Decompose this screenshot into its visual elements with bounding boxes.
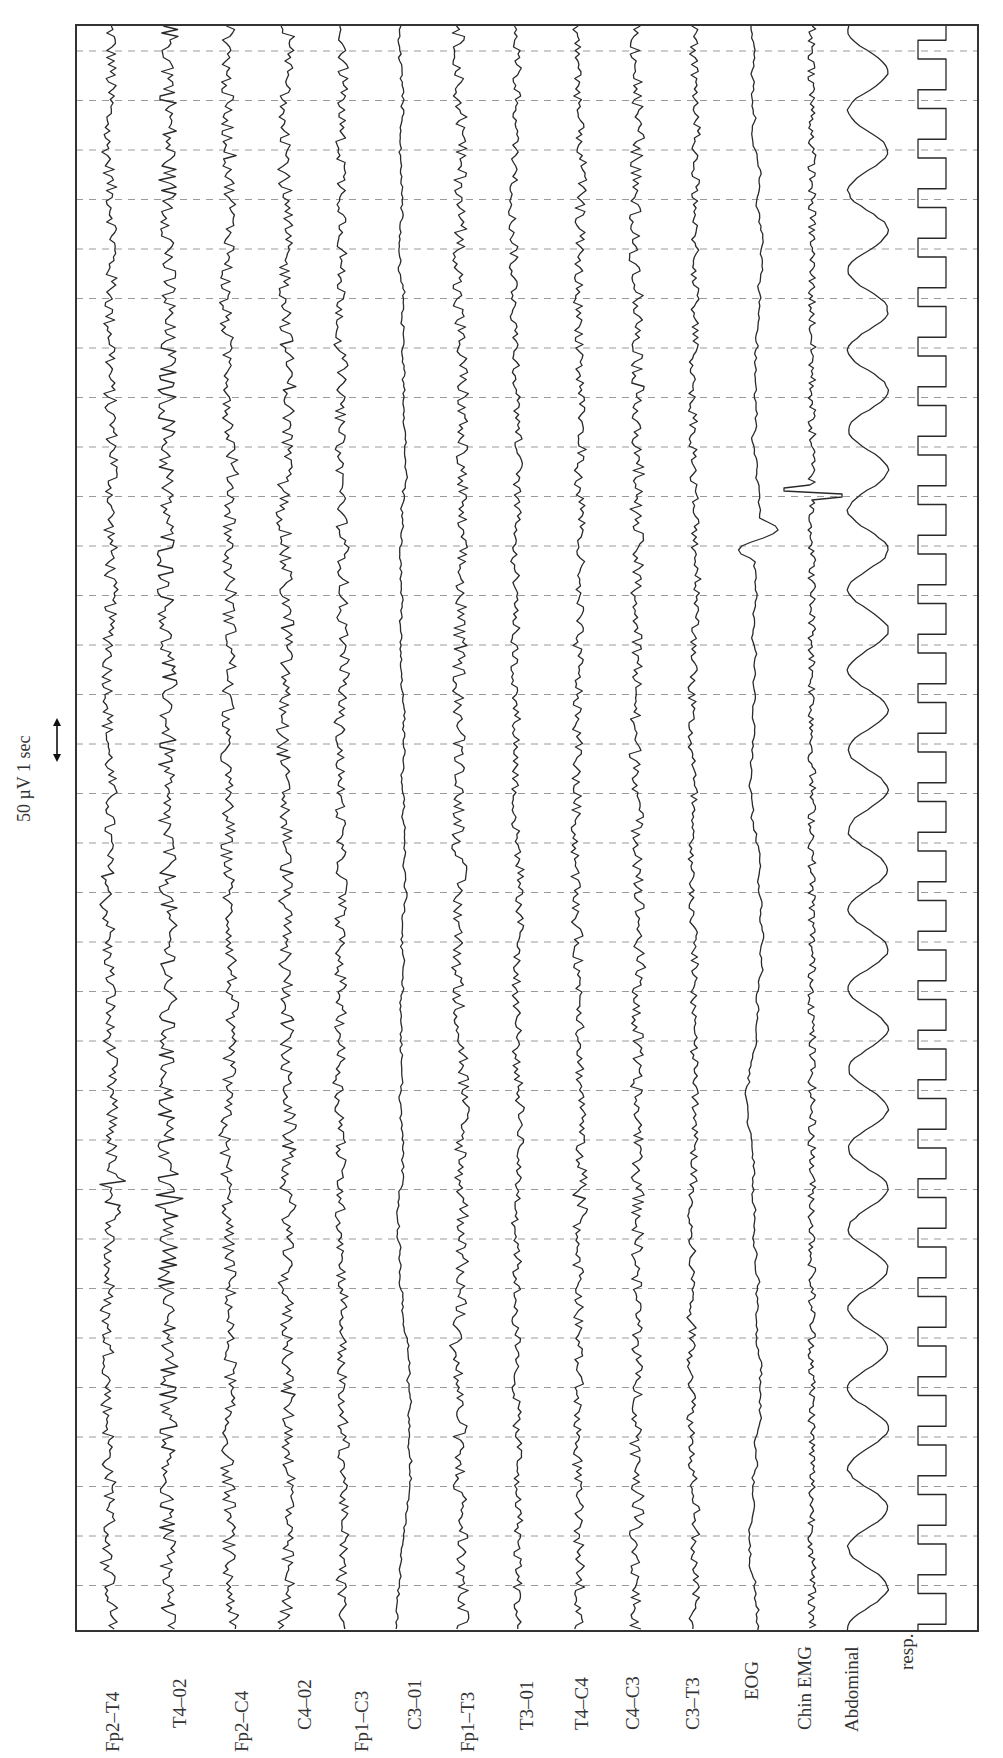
trace-t3-01 (509, 26, 525, 1629)
trace-c4-02 (276, 26, 296, 1629)
trace-fp1-t3 (450, 26, 469, 1629)
channel-label: T3–01 (516, 1680, 538, 1730)
channel-label: Fp1–T3 (457, 1692, 479, 1752)
trace-fp2-t4 (100, 26, 126, 1629)
channel-label: C3–T3 (682, 1677, 704, 1730)
channel-label: EOG (741, 1661, 763, 1700)
trace-abdominal (847, 26, 889, 1630)
arrow-down-icon (53, 754, 61, 762)
trace-t4-02 (155, 26, 183, 1629)
channel-label: Fp1–C3 (351, 1691, 373, 1752)
trace-c3-01 (396, 26, 412, 1629)
trace-resp- (918, 26, 946, 1630)
trace-c3-t3 (687, 26, 701, 1629)
arrow-up-icon (53, 718, 61, 726)
scale-bar-label: 50 µV 1 sec (14, 735, 35, 822)
channel-label: Chin EMG (794, 1646, 816, 1730)
channel-label: C4–C3 (622, 1676, 644, 1730)
trace-fp1-c3 (333, 26, 350, 1629)
channel-label: T4–C4 (571, 1677, 593, 1730)
channel-label: resp. (896, 1634, 918, 1670)
channel-label: Fp2–T4 (102, 1692, 124, 1752)
trace-eog (739, 26, 779, 1630)
trace-t4-c4 (571, 26, 587, 1629)
channel-label: T4–02 (169, 1678, 191, 1728)
trace-fp2-c4 (219, 26, 239, 1629)
trace-c4-c3 (629, 26, 645, 1629)
psg-figure: 50 µV 1 sec Fp2–T4T4–02Fp2–C4C4–02Fp1–C3… (0, 0, 1003, 1758)
channel-label: C3–01 (404, 1679, 426, 1730)
plot-frame (76, 25, 978, 1631)
channel-label: Abdominal (841, 1647, 863, 1733)
psg-plot (0, 0, 1003, 1758)
channel-label: Fp2–C4 (231, 1691, 253, 1752)
channel-label: C4–02 (294, 1679, 316, 1730)
